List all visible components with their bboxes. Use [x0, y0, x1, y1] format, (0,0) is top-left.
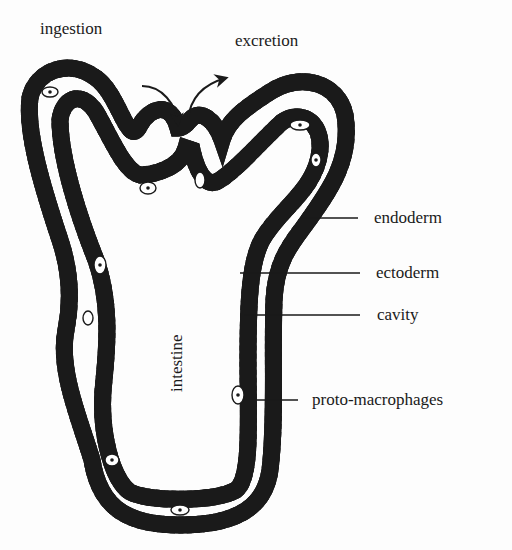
label-endoderm: endoderm	[374, 209, 442, 226]
gut-diagram: ingestion excretion intestine endoderm e…	[0, 0, 512, 550]
label-ectoderm: ectoderm	[376, 264, 439, 281]
label-proto-macrophages: proto-macrophages	[312, 391, 443, 408]
label-cavity: cavity	[377, 306, 419, 323]
label-ingestion: ingestion	[40, 20, 102, 37]
label-intestine: intestine	[168, 334, 185, 392]
ectoderm-layer	[29, 68, 346, 525]
label-excretion: excretion	[235, 32, 298, 49]
